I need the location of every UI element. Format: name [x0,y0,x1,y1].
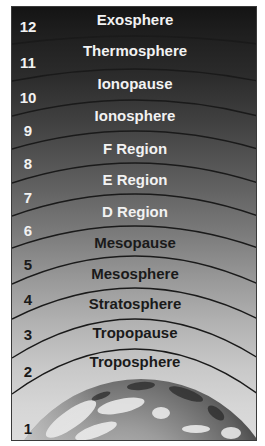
layer-name-5: Mesopause [12,235,257,251]
layer-number-8: 8 [16,156,40,172]
layer-number-3: 3 [16,327,40,343]
layer-boundaries [12,7,257,441]
layer-number-6: 6 [16,223,40,239]
layer-number-4: 4 [16,292,40,308]
layer-number-1: 1 [16,421,40,437]
layer-number-9: 9 [16,123,40,139]
layer-name-1: Troposphere [12,354,257,370]
layer-number-12: 12 [16,19,40,35]
layer-number-5: 5 [16,257,40,273]
layer-name-3: Stratosphere [12,296,257,312]
earth-globe-icon [12,379,257,441]
layer-name-11: Thermosphere [12,43,257,59]
layer-name-9: Ionosphere [12,108,257,124]
layer-number-7: 7 [16,190,40,206]
layer-name-12: Exosphere [12,12,257,28]
layer-number-11: 11 [16,55,40,71]
layer-name-8: F Region [12,141,257,157]
layer-name-10: Ionopause [12,76,257,92]
layer-name-6: D Region [12,204,257,220]
layer-number-2: 2 [16,364,40,380]
layer-name-7: E Region [12,172,257,188]
layer-number-10: 10 [16,90,40,106]
atmosphere-diagram: Exosphere Thermosphere Ionopause Ionosph… [11,6,257,441]
layer-name-2: Tropopause [12,325,257,341]
layer-name-4: Mesosphere [12,266,257,282]
